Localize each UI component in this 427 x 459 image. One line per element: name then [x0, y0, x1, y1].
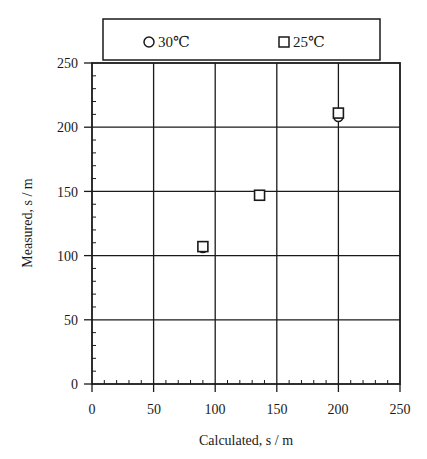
- axis-ticks: [84, 63, 400, 392]
- legend-label-25c: 25℃: [293, 34, 325, 50]
- x-tick-label: 100: [205, 402, 226, 417]
- y-tick-label: 0: [71, 377, 78, 392]
- y-tick-label: 50: [64, 313, 78, 328]
- x-tick-labels: 0 50 100 150 200 250: [89, 402, 411, 417]
- legend: 30℃ 25℃: [103, 19, 380, 60]
- y-tick-labels: 0 50 100 150 200 250: [57, 56, 78, 392]
- x-tick-label: 200: [328, 402, 349, 417]
- scatter-chart: 30℃ 25℃ 0 50 100 150 200 250 0 50 100 15…: [0, 0, 427, 459]
- x-tick-label: 50: [147, 402, 161, 417]
- y-tick-label: 250: [57, 56, 78, 71]
- x-axis-title: Calculated, s / m: [199, 433, 293, 448]
- square-marker: [198, 242, 208, 252]
- grid-lines: [92, 63, 400, 384]
- y-tick-label: 200: [57, 120, 78, 135]
- y-tick-label: 150: [57, 185, 78, 200]
- x-tick-label: 150: [267, 402, 288, 417]
- x-tick-label: 250: [390, 402, 411, 417]
- y-axis-title: Measured, s / m: [20, 178, 35, 268]
- plot-frame: [92, 63, 400, 384]
- y-tick-label: 100: [57, 249, 78, 264]
- square-marker: [333, 108, 343, 118]
- legend-label-30c: 30℃: [158, 34, 190, 50]
- data-points: [198, 108, 344, 252]
- square-marker: [255, 190, 265, 200]
- x-tick-label: 0: [89, 402, 96, 417]
